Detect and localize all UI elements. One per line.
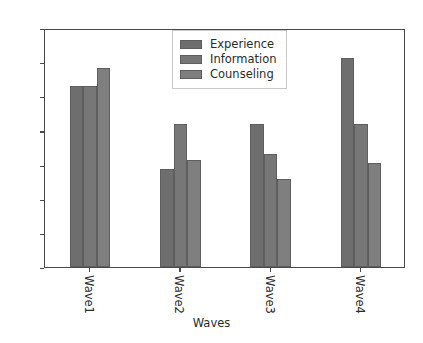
x-axis-tick-label: Wave1	[82, 275, 96, 314]
bar	[354, 124, 368, 267]
legend-item: Experience	[180, 37, 277, 52]
bar	[250, 124, 264, 267]
bar	[174, 124, 188, 267]
legend-swatch-icon	[180, 55, 202, 64]
y-axis-tick-mark	[40, 268, 44, 269]
bar-chart-figure: 050100150200250300350 Wave1Wave2Wave3Wav…	[0, 0, 423, 343]
legend-label: Information	[210, 52, 277, 67]
bar	[70, 86, 84, 267]
legend-swatch-icon	[180, 40, 202, 49]
x-axis-tick-label: Wave3	[263, 275, 277, 314]
x-axis-tick-mark	[89, 268, 90, 272]
x-axis-tick-mark	[360, 268, 361, 272]
bar	[83, 86, 97, 267]
legend-label: Experience	[210, 37, 274, 52]
bar	[341, 58, 355, 267]
x-axis-tick-mark	[270, 268, 271, 272]
x-axis-tick-mark	[179, 268, 180, 272]
bar	[277, 179, 291, 267]
bar	[187, 160, 201, 267]
legend-label: Counseling	[210, 67, 274, 82]
bar	[160, 169, 174, 267]
x-axis-tick-label: Wave2	[172, 275, 186, 314]
x-axis-tick-label: Wave4	[353, 275, 367, 314]
bar	[264, 154, 278, 267]
bar	[97, 68, 111, 267]
legend-item: Counseling	[180, 67, 277, 82]
legend-item: Information	[180, 52, 277, 67]
x-axis-title: Waves	[0, 316, 423, 330]
chart-legend: ExperienceInformationCounseling	[172, 30, 287, 89]
legend-swatch-icon	[180, 70, 202, 79]
bar	[368, 163, 382, 267]
